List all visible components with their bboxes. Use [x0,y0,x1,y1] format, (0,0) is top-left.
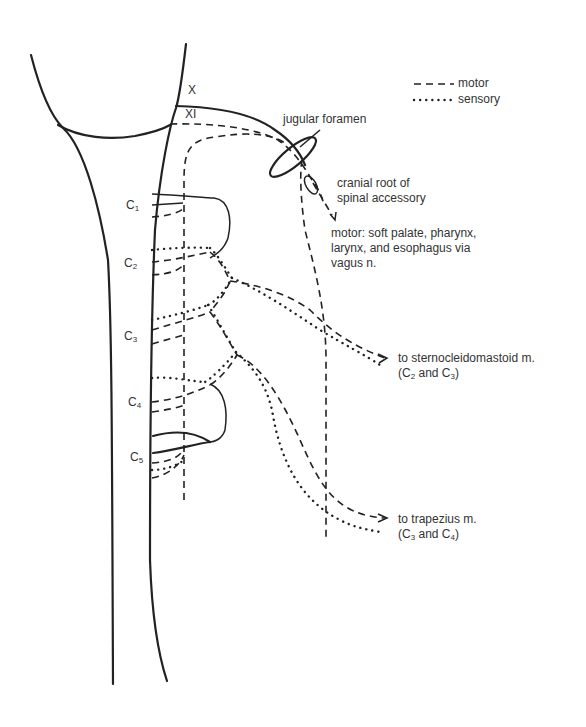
c2-sub: 2 [133,262,137,271]
sensory-from-scm [232,278,380,365]
c3-motor-rootlet-1 [152,312,210,330]
c3-sensory-rootlet [152,305,208,320]
c3-motor-rootlet-2 [152,335,184,344]
label-sternocleidomastoid: to sternocleidomastoid m. (C2 and C3) [398,351,535,384]
trap-close: ) [455,527,459,541]
brainstem-left-outline [31,55,113,684]
sensory-connector-c3-c4 [205,305,236,382]
c1-sub: 1 [135,204,139,213]
c5-sensory-rootlet [152,460,184,470]
cranial-root-arrow [313,183,332,215]
scm-arrowhead [378,354,387,363]
scm-line-1: to sternocleidomastoid m. [398,351,535,366]
c2-sensory-rootlet [152,248,210,250]
label-motor-targets: motor: soft palate, pharynx, larynx, and… [331,226,476,271]
c4-sensory-rootlet [152,378,205,382]
label-jugular-foramen: jugular foramen [283,112,366,127]
c5-root-upper [153,433,210,442]
motor-targets-line-2: larynx, and esophagus via [331,241,476,256]
label-c2: C2 [124,256,137,274]
c4-motor-rootlet-1 [152,385,210,402]
legend-sensory-label: sensory [458,92,500,107]
c2-letter: C [124,256,133,270]
scm-line-2: (C2 and C3) [398,366,535,384]
label-c3: C3 [124,329,137,347]
c3-sub: 3 [133,335,137,344]
c5-motor-rootlet-2 [152,455,184,478]
scm-close: ) [455,366,459,380]
c4-letter: C [128,395,137,409]
brainstem-right-outline [150,44,186,681]
label-c5: C5 [130,450,143,468]
spinal-accessory-root-ascending [184,134,285,500]
sensory-from-trapezius [236,352,380,532]
label-c1: C1 [126,198,139,216]
scm-open: (C [398,366,411,380]
label-cranial-nerve-xi: XI [185,107,196,122]
c4-c5-loop [210,384,226,442]
medulla-base-curve [58,125,170,138]
label-cranial-root: cranial root of spinal accessory [337,176,426,206]
c4-sub: 4 [137,401,141,410]
c3-letter: C [124,329,133,343]
motor-connector-c2-c3 [210,252,230,312]
motor-targets-line-3: vagus n. [331,256,476,271]
cranial-root-loop [302,174,321,196]
label-cranial-nerve-x: X [188,83,196,98]
legend-motor-label: motor [458,76,489,91]
cranial-root-line-1: cranial root of [337,176,426,191]
trapezius-line-1: to trapezius m. [398,512,477,527]
c2-motor-rootlet-1 [152,252,210,262]
c5-letter: C [130,450,139,464]
c1-letter: C [126,198,135,212]
trapezius-line-2: (C3 and C4) [398,527,477,545]
cranial-root-arrowhead [330,212,336,220]
c2-motor-rootlet-2 [152,264,184,275]
c5-sub: 5 [139,456,143,465]
cranial-root-line-2: spinal accessory [337,191,426,206]
label-c4: C4 [128,395,141,413]
c4-motor-rootlet-2 [152,405,184,412]
jugular-foramen [265,131,321,182]
scm-and: and C [415,366,450,380]
trap-and: and C [415,527,450,541]
motor-targets-line-1: motor: soft palate, pharynx, [331,226,476,241]
label-trapezius: to trapezius m. (C3 and C4) [398,512,477,545]
c5-root-lower [153,442,210,453]
motor-to-scm [230,281,385,358]
trap-open: (C [398,527,411,541]
